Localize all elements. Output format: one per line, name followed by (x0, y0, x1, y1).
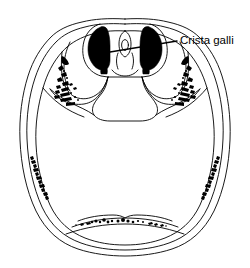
anatomy-figure: Crista galli (0, 0, 250, 268)
crista-galli-label: Crista galli (180, 34, 234, 46)
cranial-base-diagram: Crista galli (0, 0, 250, 268)
